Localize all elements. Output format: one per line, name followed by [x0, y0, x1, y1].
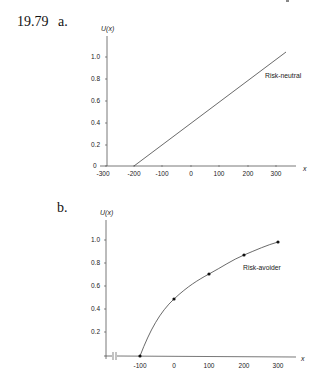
chart-a-ytick: 0.8: [91, 75, 100, 82]
data-point: [242, 253, 245, 256]
chart-a-xtick: 0: [189, 170, 193, 177]
chart-b: U(x) x 0.2 0.4 0.6 0.8 1.0 -100 0 100 20…: [91, 209, 305, 369]
chart-b-xtick: 100: [204, 362, 215, 369]
chart-b-x-ticks: -100 0 100 200 300: [133, 362, 283, 369]
data-point: [138, 354, 141, 357]
chart-b-xtick: 0: [172, 362, 176, 369]
chart-a-xtick: -100: [155, 170, 168, 177]
chart-b-x-axis: [117, 356, 296, 357]
chart-b-data-points: [138, 240, 279, 357]
chart-a-ytick: 0.4: [91, 119, 100, 126]
data-point: [172, 297, 175, 300]
chart-b-ytick: 0.6: [91, 282, 100, 289]
chart-a-xtick: 100: [214, 170, 225, 177]
chart-a-ytick: 0.6: [91, 97, 100, 104]
chart-b-ytick: 0.8: [91, 259, 100, 266]
charts-canvas: U(x) x 0 0.2 0.4 0.6 0.8 1.0 -300: [0, 0, 332, 389]
chart-a-risk-neutral-line: [134, 52, 286, 166]
chart-a-ylabel: U(x): [101, 25, 114, 33]
chart-b-xtick: 200: [239, 362, 250, 369]
chart-b-ytick: 0.4: [91, 305, 100, 312]
chart-a-ytick: 0: [93, 162, 97, 169]
chart-b-xtick: 300: [273, 362, 284, 369]
chart-a-y-ticks: 0 0.2 0.4 0.6 0.8 1.0: [91, 53, 107, 169]
chart-a-xtick: 200: [243, 170, 254, 177]
chart-b-xlabel: x: [300, 355, 305, 362]
chart-a-xlabel: x: [302, 165, 307, 172]
chart-a-xtick: -300: [96, 170, 109, 177]
data-point: [276, 240, 279, 243]
chart-a-ytick: 0.2: [91, 141, 100, 148]
chart-b-risk-avoider-curve: [140, 242, 278, 356]
chart-b-xtick: -100: [133, 362, 146, 369]
chart-a-curve-label: Risk-neutral: [265, 72, 302, 79]
data-point: [207, 272, 210, 275]
chart-b-ylabel: U(x): [100, 209, 113, 217]
chart-b-ytick: 1.0: [91, 236, 100, 243]
chart-a-xtick: 300: [271, 170, 282, 177]
chart-b-ytick: 0.2: [91, 328, 100, 335]
chart-a-x-ticks: -300 -200 -100 0 100 200 300: [96, 165, 281, 177]
chart-a: U(x) x 0 0.2 0.4 0.6 0.8 1.0 -300: [91, 25, 307, 177]
chart-b-curve-label: Risk-avoider: [243, 264, 282, 271]
chart-a-xtick: -200: [127, 170, 140, 177]
chart-b-y-ticks: 0.2 0.4 0.6 0.8 1.0: [91, 236, 106, 335]
chart-a-ytick: 1.0: [91, 53, 100, 60]
